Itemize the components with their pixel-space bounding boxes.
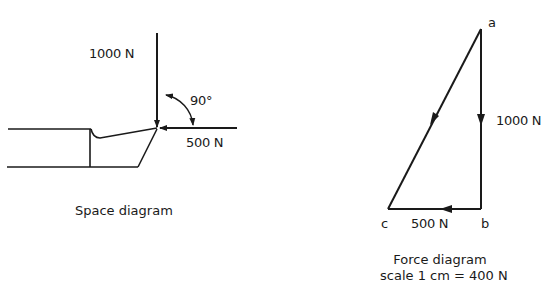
force-diagram-scale: scale 1 cm = 400 N (380, 268, 500, 284)
vertical-force-label: 1000 N (89, 47, 134, 60)
point-c-label: c (381, 217, 388, 230)
bc-direction-arrow (440, 205, 452, 213)
ab-direction-arrow (477, 114, 485, 126)
angle-arc (166, 95, 193, 125)
horizontal-force-label: 500 N (186, 136, 223, 149)
force-diagram-title: Force diagram (380, 252, 500, 268)
force-diagram-caption: Force diagram scale 1 cm = 400 N (380, 252, 500, 285)
angle-label: 90° (190, 94, 212, 107)
point-a-label: a (488, 16, 496, 29)
ab-force-label: 1000 N (496, 114, 541, 127)
bc-force-label: 500 N (411, 217, 448, 230)
cutting-tool-outline (7, 128, 157, 167)
point-b-label: b (481, 217, 489, 230)
space-diagram-caption: Space diagram (75, 203, 173, 219)
